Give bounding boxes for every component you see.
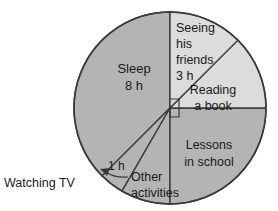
slice-label-other-line1: Other <box>131 170 162 184</box>
slice-label-reading-line2: a book <box>194 99 232 113</box>
slice-label-friends-value: 3 h <box>176 69 193 83</box>
slice-label-friends-line1: Seeing <box>176 21 215 35</box>
callout-label-watching-tv: Watching TV <box>4 176 76 190</box>
pie-chart-svg: Sleep 8 h Seeing his friends 3 h Reading… <box>0 0 278 211</box>
slice-label-lessons-line1: Lessons <box>186 138 233 152</box>
slice-label-friends-line3: friends <box>176 53 214 67</box>
slice-label-watching-tv-value: 1 h <box>108 159 125 173</box>
slice-label-friends-line2: his <box>176 37 192 51</box>
slice-label-reading-line1: Reading <box>190 83 237 97</box>
slice-label-sleep-line2: 8 h <box>125 78 143 93</box>
slice-label-other-line2: activities <box>131 186 179 200</box>
pie-chart-figure: Sleep 8 h Seeing his friends 3 h Reading… <box>0 0 278 211</box>
slice-label-sleep-line1: Sleep <box>117 61 150 76</box>
slice-label-lessons-line2: in school <box>184 155 233 169</box>
